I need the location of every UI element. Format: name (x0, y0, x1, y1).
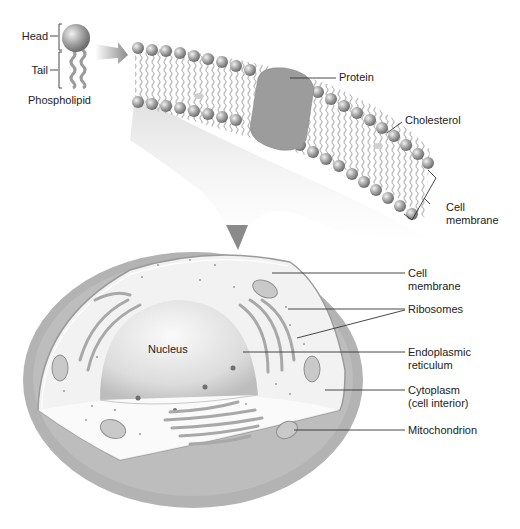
down-arrow-icon (226, 225, 248, 250)
zoom-arrow-icon (95, 42, 128, 64)
cell-membrane-label-line1: Cell (408, 267, 427, 279)
tail-label: Tail (31, 64, 48, 76)
nucleus-label: Nucleus (148, 343, 188, 355)
cholesterol-icon (373, 143, 383, 149)
ribosomes-label: Ribosomes (408, 303, 464, 315)
er-label-line1: Endoplasmic (408, 346, 471, 358)
protein-label: Protein (339, 71, 374, 83)
cholesterol-icon (194, 93, 204, 99)
phospholipid-label: Phospholipid (28, 94, 91, 106)
phospholipid-illustration (50, 24, 128, 88)
phospholipid-head-icon (62, 24, 90, 52)
phospholipid-tails-icon (71, 50, 85, 88)
mitochondrion-label: Mitochondrion (408, 424, 477, 436)
cell-illustration (23, 252, 363, 508)
head-label: Head (22, 30, 48, 42)
membrane-detail-cell-membrane-label-line2: membrane (446, 214, 499, 226)
cholesterol-label: Cholesterol (405, 114, 461, 126)
membrane-bilayer-detail (130, 42, 436, 250)
cytoplasm-label-line1: Cytoplasm (408, 384, 460, 396)
cytoplasm-label-line2: (cell interior) (408, 397, 469, 409)
cell-diagram: Head Tail Phospholipid (0, 0, 520, 529)
cell-membrane-label-line2: membrane (408, 280, 461, 292)
er-label-line2: reticulum (408, 359, 453, 371)
membrane-protein-icon (250, 68, 314, 151)
membrane-detail-cell-membrane-label-line1: Cell (446, 201, 465, 213)
